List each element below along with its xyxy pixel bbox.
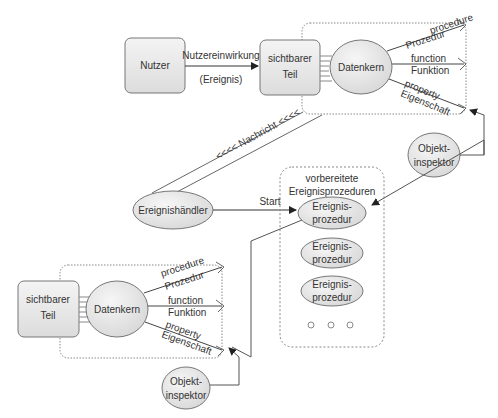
more-procedures-icon: [308, 322, 353, 328]
bottom-property-end-icon: [216, 346, 224, 356]
prepared-title-2: Ereignisprozeduren: [289, 186, 376, 197]
bottom-visible-part-label-1: sichtbarer: [26, 294, 71, 305]
bottom-visible-part-box[interactable]: [18, 281, 79, 337]
bottom-function-label-de: Funktion: [168, 307, 206, 318]
bottom-data-core-label: Datenkern: [94, 304, 140, 315]
inspector-bottom-label-2: inspektor: [166, 390, 207, 401]
event-handler-label: Ereignishändler: [138, 205, 208, 216]
top-object-group: Nutzer Nutzereinwirkung (Ereignis) sicht…: [125, 11, 484, 177]
object-inspector-top[interactable]: [408, 133, 460, 177]
user-input-label: Nutzereinwirkung: [182, 50, 259, 61]
event-label: (Ereignis): [200, 74, 243, 85]
prepared-title-1: vorbereitete: [306, 173, 359, 184]
bottom-function-label: function: [168, 295, 203, 306]
function-label: function: [411, 53, 446, 64]
procedure-to-bottom-connector: [232, 220, 302, 357]
event-procedure-3-label-1: Ereignis-: [312, 279, 351, 290]
visible-part-label-1: sichtbarer: [268, 53, 313, 64]
inspector-bottom-label-1: Objekt-: [170, 376, 202, 387]
inspector-top-label-2: inspektor: [414, 157, 455, 168]
visible-part-box[interactable]: [260, 40, 320, 95]
visible-part-label-2: Teil: [282, 69, 297, 80]
object-inspector-bottom[interactable]: [162, 367, 210, 409]
bottom-object-group: sichtbarer Teil Datenkern procedure Proz…: [18, 254, 239, 409]
event-procedure-2-label-1: Ereignis-: [312, 241, 351, 252]
data-core-label: Datenkern: [338, 62, 384, 73]
user-label: Nutzer: [140, 60, 170, 71]
event-procedure-1-label-1: Ereignis-: [312, 201, 351, 212]
message-band: <<<< Nachricht <<<<: [152, 106, 322, 193]
inspector-top-connector: [460, 110, 484, 155]
start-label: Start: [259, 196, 280, 207]
message-label: <<<< Nachricht <<<<: [214, 106, 302, 162]
event-procedure-2-label-2: prozedur: [312, 254, 352, 265]
procedure-label-de: Prozedur: [404, 28, 447, 51]
prepared-procedures-group: vorbereitete Ereignisprozeduren Ereignis…: [280, 167, 384, 347]
event-procedure-1-label-2: prozedur: [312, 214, 352, 225]
inspector-top-label-1: Objekt-: [418, 143, 450, 154]
function-label-de: Funktion: [411, 65, 449, 76]
diagram-canvas: Nutzer Nutzereinwirkung (Ereignis) sicht…: [0, 0, 498, 418]
inspector-bottom-connector: [210, 348, 239, 385]
event-procedure-3-label-2: prozedur: [312, 292, 352, 303]
property-end-icon: [458, 104, 466, 114]
bottom-visible-part-label-2: Teil: [40, 310, 55, 321]
